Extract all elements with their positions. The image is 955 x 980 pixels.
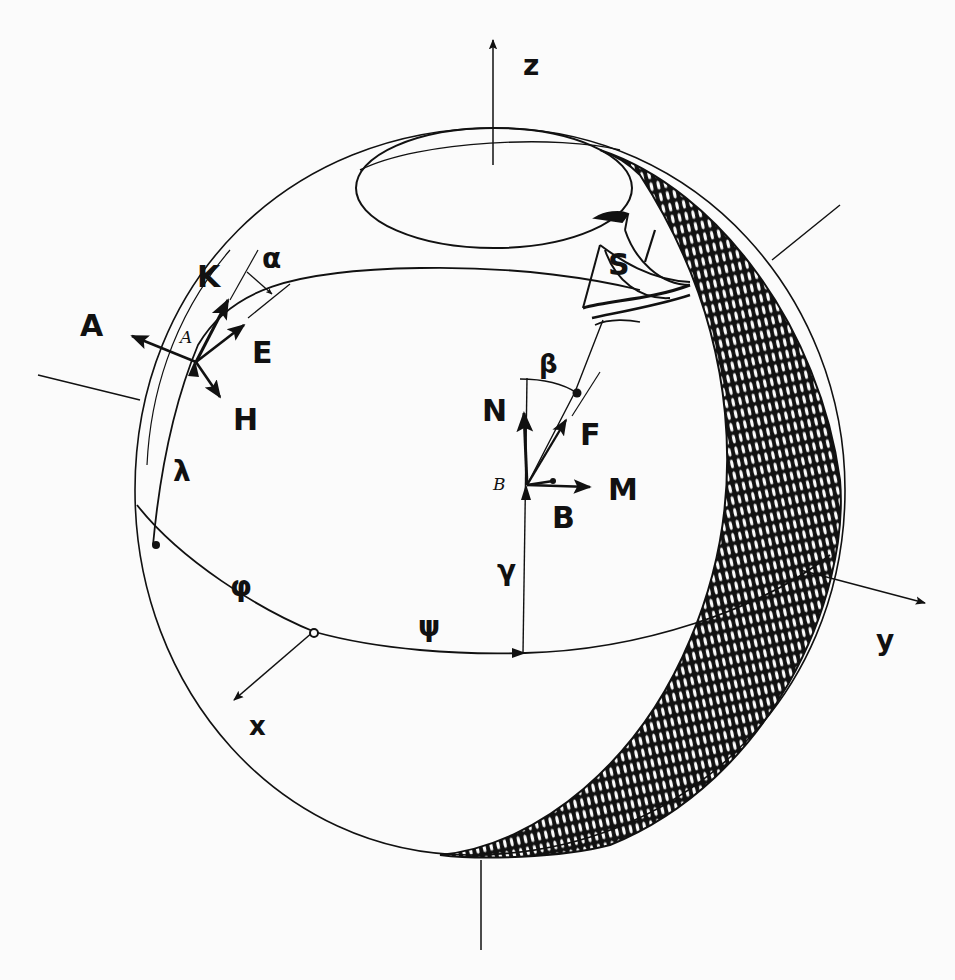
vector-k <box>196 300 228 362</box>
y-axis-label: y <box>876 624 894 657</box>
diagram-canvas: z y x K A E H A α N F M B B β λ φ ψ γ <box>0 0 955 980</box>
sphere-inner-edge <box>360 142 620 170</box>
node-b-arrow <box>521 484 531 500</box>
label-lambda: λ <box>173 455 191 488</box>
label-beta: β <box>539 349 558 379</box>
label-point-a: A <box>178 327 192 347</box>
x-axis-label: x <box>249 711 266 741</box>
label-e: E <box>252 335 273 370</box>
label-alpha: α <box>262 242 281 275</box>
z-axis-label: z <box>523 49 539 82</box>
label-f: F <box>580 417 601 452</box>
vector-m <box>527 485 590 487</box>
label-k: K <box>197 259 222 294</box>
vector-f <box>527 420 566 485</box>
night-shadow-crescent <box>440 150 841 858</box>
origin-node <box>310 629 318 637</box>
x-axis <box>234 632 313 700</box>
label-m: M <box>608 472 638 507</box>
vector-e <box>196 325 244 362</box>
label-a-vector: A <box>80 308 104 343</box>
beta-node <box>573 389 582 398</box>
label-phi: φ <box>230 570 252 603</box>
label-h: H <box>233 402 258 437</box>
node-gamma-arrow <box>512 648 526 658</box>
vector-b-small-tip <box>550 478 556 484</box>
vector-h <box>196 362 220 397</box>
sphere-diagram: z y x K A E H A α N F M B B β λ φ ψ γ <box>0 0 955 980</box>
node-lambda-phi <box>152 541 160 549</box>
label-s: S <box>608 247 630 282</box>
label-gamma: γ <box>497 554 516 587</box>
track-b-to-s <box>527 320 603 485</box>
axis-stub-upper-right <box>772 205 840 260</box>
alpha-ref-line-1 <box>230 250 258 300</box>
label-point-b: B <box>492 474 506 494</box>
label-n: N <box>482 393 507 428</box>
beta-angle-arc <box>520 379 577 393</box>
label-b-vector: B <box>552 500 575 535</box>
axis-stub-left <box>38 375 140 400</box>
polar-circle <box>356 128 632 248</box>
label-psi: ψ <box>418 610 440 643</box>
alpha-ref-line-2 <box>248 284 290 318</box>
